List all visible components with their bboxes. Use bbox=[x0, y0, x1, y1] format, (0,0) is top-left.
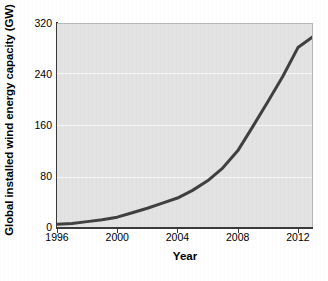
plot-area bbox=[57, 23, 313, 227]
x-tick-mark bbox=[57, 228, 58, 233]
x-tick-mark bbox=[238, 228, 239, 233]
x-axis-line bbox=[56, 227, 313, 229]
y-tick-label: 240 bbox=[18, 68, 52, 80]
x-axis-title: Year bbox=[57, 250, 313, 262]
y-tick-label: 80 bbox=[18, 170, 52, 182]
y-tick-label: 320 bbox=[18, 17, 52, 29]
x-tick-mark bbox=[117, 228, 118, 233]
wind-capacity-line bbox=[57, 37, 313, 224]
chart-figure: Global installed wind energy capacity (G… bbox=[0, 0, 328, 281]
y-tick-label: 160 bbox=[18, 119, 52, 131]
x-tick-mark bbox=[177, 228, 178, 233]
data-series-line bbox=[57, 24, 313, 227]
x-tick-mark bbox=[298, 228, 299, 233]
